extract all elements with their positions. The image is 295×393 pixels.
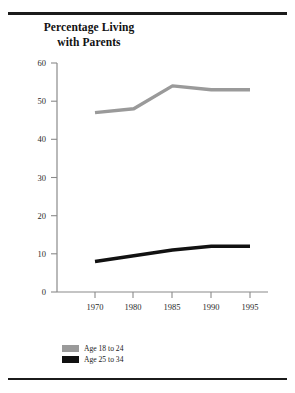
plot-area: 60 50 40 30 20 10 0 1970 1980 1985 1990 … [0,0,295,393]
legend-swatch-age-18-24 [62,345,79,352]
x-tick-label-1980: 1980 [125,302,142,312]
x-tick-label-1990: 1990 [203,302,220,312]
legend-swatch-age-25-34 [62,356,79,363]
y-tick-label-20: 20 [38,211,47,221]
y-tick-label-0: 0 [42,287,46,297]
y-tick-label-10: 10 [38,249,47,259]
bottom-rule [8,378,287,380]
line-chart: 60 50 40 30 20 10 0 1970 1980 1985 1990 … [0,0,295,393]
x-axis-ticks [95,292,250,298]
y-tick-label-40: 40 [38,134,47,144]
y-tick-label-60: 60 [38,58,47,68]
figure-page: Percentage Living with Parents 60 50 40 … [0,0,295,393]
chart-legend: Age 18 to 24 Age 25 to 34 [62,343,123,365]
x-tick-label-1970: 1970 [87,302,104,312]
series-line-age-25-34 [95,246,250,261]
y-tick-label-30: 30 [38,173,47,183]
legend-label-age-18-24: Age 18 to 24 [84,345,123,353]
x-tick-label-1995: 1995 [242,302,259,312]
y-tick-label-50: 50 [38,96,47,106]
x-tick-label-1985: 1985 [164,302,181,312]
legend-item-age-25-34: Age 25 to 34 [62,354,123,365]
y-axis-ticks [51,63,57,292]
legend-label-age-25-34: Age 25 to 34 [84,356,123,364]
legend-item-age-18-24: Age 18 to 24 [62,343,123,354]
series-line-age-18-24 [95,86,250,113]
